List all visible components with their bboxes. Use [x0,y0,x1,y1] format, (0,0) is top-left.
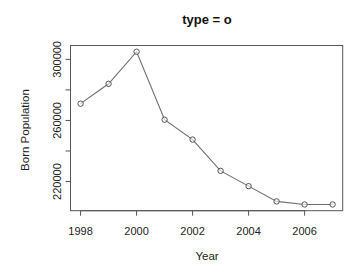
x-tick-label: 2000 [124,225,148,237]
y-tick-label: 300000 [51,41,63,78]
x-tick-label: 2004 [236,225,260,237]
x-axis: 19982000200220042006 [68,211,317,237]
data-point-marker [302,202,307,207]
x-tick-label: 2002 [180,225,204,237]
x-tick-label: 2006 [292,225,316,237]
data-point-marker [218,168,223,173]
y-tick-label: 220000 [51,163,63,200]
data-point-marker [246,183,251,188]
series-line [81,52,333,205]
chart-title: type = o [182,12,232,27]
x-tick-label: 1998 [68,225,92,237]
y-axis-label: Born Population [19,89,31,171]
y-tick-label: 260000 [51,102,63,139]
data-point-marker [274,199,279,204]
data-point-marker [106,81,111,86]
x-axis-label: Year [195,250,218,262]
data-point-marker [162,117,167,122]
data-point-marker [134,49,139,54]
data-point-marker [78,101,83,106]
line-chart: type = o 19982000200220042006 2200002600… [0,0,363,273]
data-point-marker [190,137,195,142]
y-axis: 220000260000300000 [51,41,71,200]
plot-area [71,46,343,211]
data-point-marker [330,202,335,207]
series-points [78,49,335,207]
